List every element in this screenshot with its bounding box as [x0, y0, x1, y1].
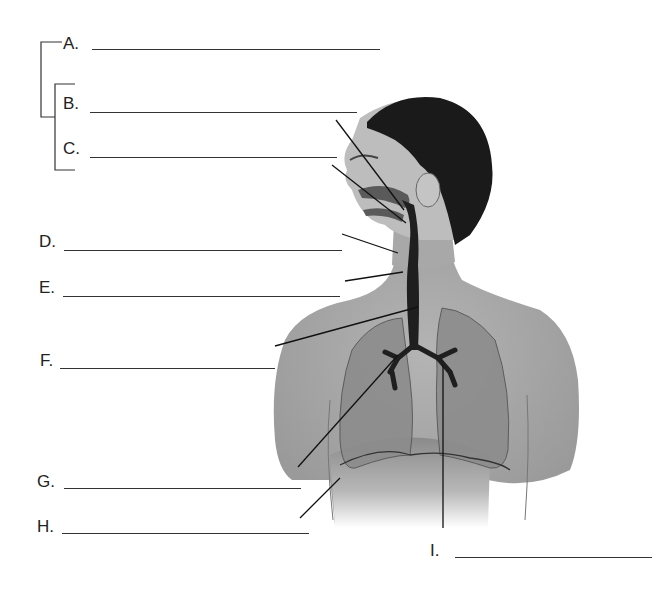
leader-d	[342, 234, 398, 253]
label-c: C.	[63, 140, 80, 157]
answer-blank-d[interactable]	[64, 250, 342, 251]
label-a: A.	[63, 35, 79, 52]
bracket-a	[41, 42, 62, 117]
answer-blank-c[interactable]	[90, 157, 337, 158]
answer-blank-a[interactable]	[92, 49, 380, 50]
answer-blank-b[interactable]	[90, 112, 357, 113]
answer-blank-f[interactable]	[60, 368, 275, 369]
label-g: G.	[37, 473, 55, 490]
respiratory-system-illustration	[0, 0, 667, 590]
torso	[274, 240, 579, 528]
answer-blank-g[interactable]	[64, 488, 301, 489]
answer-blank-i[interactable]	[455, 557, 652, 558]
label-f: F.	[40, 352, 53, 369]
label-i: I.	[430, 542, 439, 559]
head	[344, 97, 492, 245]
answer-blank-h[interactable]	[62, 533, 309, 534]
label-b: B.	[63, 95, 79, 112]
label-e: E.	[39, 279, 55, 296]
label-d: D.	[39, 233, 56, 250]
label-h: H.	[37, 518, 54, 535]
answer-blank-e[interactable]	[63, 296, 340, 297]
